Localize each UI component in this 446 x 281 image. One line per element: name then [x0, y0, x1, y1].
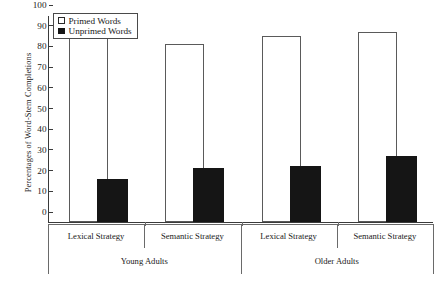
plot-area: 0102030405060708090100 — [48, 16, 433, 223]
bar-unprimed — [290, 166, 321, 222]
bar-unprimed — [97, 179, 128, 222]
y-axis-tick: 20 — [37, 166, 49, 176]
band-edge-left — [48, 224, 49, 274]
y-axis-tick-label: 0 — [42, 207, 49, 217]
y-axis-tick: 90 — [37, 21, 49, 31]
y-axis-tick-label: 90 — [37, 21, 49, 31]
y-axis-tick-label: 80 — [37, 41, 49, 51]
legend-item-unprimed: Unprimed Words — [58, 26, 132, 36]
y-axis-tick: 60 — [37, 83, 49, 93]
x-label-strategy: Semantic Strategy — [144, 224, 240, 248]
y-axis-tick-mark — [49, 5, 53, 6]
bar-unprimed — [386, 156, 417, 222]
bar-chart: Percentages of Word-Stem Completions 010… — [0, 0, 446, 281]
y-axis-tick-label: 10 — [37, 186, 49, 196]
y-axis-tick: 10 — [37, 186, 49, 196]
band-divider-strategy — [337, 224, 338, 248]
legend-item-primed: Primed Words — [58, 16, 132, 26]
x-label-group: Young Adults — [48, 248, 241, 274]
legend: Primed Words Unprimed Words — [53, 13, 138, 39]
y-axis-tick-label: 50 — [37, 104, 49, 114]
y-axis-tick: 40 — [37, 124, 49, 134]
y-axis-tick-label: 60 — [37, 83, 49, 93]
y-axis-tick-label: 100 — [33, 0, 49, 10]
y-axis-tick: 80 — [37, 41, 49, 51]
y-axis-tick: 70 — [37, 62, 49, 72]
y-axis-title: Percentages of Word-Stem Completions — [24, 23, 33, 223]
open-square-icon — [58, 17, 65, 24]
y-axis-tick-label: 70 — [37, 62, 49, 72]
bars-layer — [49, 16, 433, 222]
y-axis-tick: 50 — [37, 104, 49, 114]
x-label-strategy: Lexical Strategy — [48, 224, 144, 248]
band-divider-groups — [241, 224, 242, 274]
band-top-rule — [48, 224, 433, 225]
legend-label-primed: Primed Words — [69, 16, 121, 26]
filled-square-icon — [58, 28, 65, 35]
band-divider-strategy — [144, 224, 145, 248]
y-axis-tick-label: 40 — [37, 124, 49, 134]
y-axis-tick-label: 20 — [37, 166, 49, 176]
y-axis-tick-label: 30 — [37, 145, 49, 155]
bar-unprimed — [193, 168, 224, 222]
x-label-strategy: Semantic Strategy — [337, 224, 433, 248]
x-label-group: Older Adults — [241, 248, 434, 274]
legend-label-unprimed: Unprimed Words — [69, 26, 132, 36]
band-edge-right — [433, 224, 434, 274]
x-label-strategy: Lexical Strategy — [241, 224, 337, 248]
y-axis-tick: 100 — [33, 0, 49, 10]
y-axis-tick: 30 — [37, 145, 49, 155]
y-axis-tick: 0 — [42, 207, 49, 217]
